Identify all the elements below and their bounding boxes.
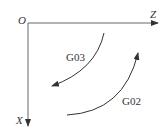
g02-label: G02: [122, 95, 141, 107]
z-axis-label: Z: [150, 8, 157, 20]
g03-label: G03: [66, 51, 85, 63]
x-axis-label: X: [15, 114, 24, 126]
origin-label: O: [18, 14, 26, 26]
arc-direction-diagram: O Z X G03 G02: [0, 0, 167, 136]
